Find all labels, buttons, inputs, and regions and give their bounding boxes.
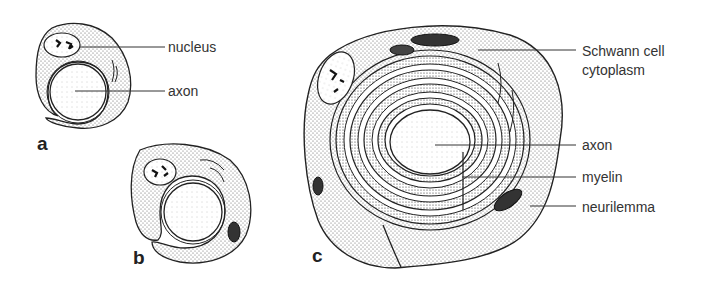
panel-a-axon (50, 64, 106, 120)
label-neurilemma: neurilemma (582, 199, 655, 215)
panel-a-cell (36, 23, 131, 128)
label-axon-a: axon (168, 83, 198, 99)
label-nucleus: nucleus (168, 39, 216, 55)
label-myelin: myelin (582, 169, 622, 185)
label-cytoplasm: cytoplasm (582, 62, 645, 78)
label-axon-c: axon (582, 137, 612, 153)
panel-c-cell (304, 26, 562, 268)
panel-a-nucleus (44, 33, 80, 57)
panel-c-axon (390, 110, 470, 174)
panel-letter-c: c (312, 245, 323, 267)
label-schwann-cell: Schwann cell (582, 43, 665, 59)
panel-letter-a: a (37, 133, 48, 155)
panel-b-axon (164, 183, 222, 241)
panel-b-cell (131, 144, 251, 263)
panel-b-nucleus (144, 159, 176, 185)
myelination-diagram: nucleus axon a b c Schwann cell cytoplas… (0, 0, 716, 297)
panel-letter-b: b (133, 247, 145, 269)
